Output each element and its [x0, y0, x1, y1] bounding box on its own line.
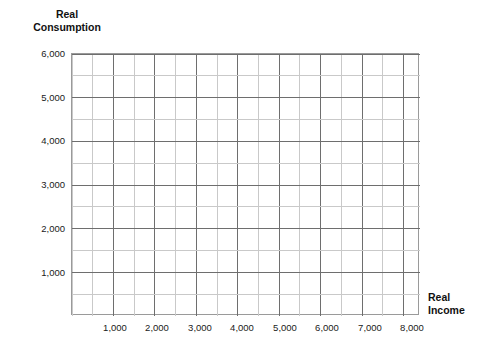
x-axis-title: Real Income	[428, 291, 494, 316]
plot-area	[71, 53, 419, 315]
grid-lines	[72, 54, 420, 316]
x-tick-label: 3,000	[177, 322, 223, 333]
y-tick-label: 2,000	[19, 223, 65, 234]
y-tick-label: 3,000	[19, 179, 65, 190]
x-tick-label: 5,000	[262, 322, 308, 333]
y-axis-title: Real Consumption	[12, 8, 122, 33]
x-tick-label: 8,000	[389, 322, 435, 333]
y-tick-label: 5,000	[19, 92, 65, 103]
chart-canvas: Real Consumption Real Income 6,000 5,000…	[0, 0, 497, 361]
x-tick-label: 4,000	[219, 322, 265, 333]
x-tick-label: 7,000	[347, 322, 393, 333]
y-tick-label: 1,000	[19, 267, 65, 278]
x-tick-label: 2,000	[134, 322, 180, 333]
x-tick-label: 6,000	[304, 322, 350, 333]
x-tick-label: 1,000	[92, 322, 138, 333]
y-tick-label: 6,000	[19, 48, 65, 59]
y-tick-label: 4,000	[19, 135, 65, 146]
